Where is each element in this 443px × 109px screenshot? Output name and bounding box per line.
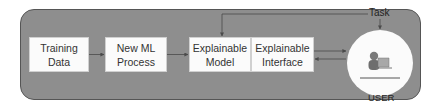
user-label: USER [368, 92, 394, 103]
user-icon [369, 52, 393, 70]
arrow-task-to-model [222, 14, 368, 36]
task-label: Task [369, 7, 390, 18]
